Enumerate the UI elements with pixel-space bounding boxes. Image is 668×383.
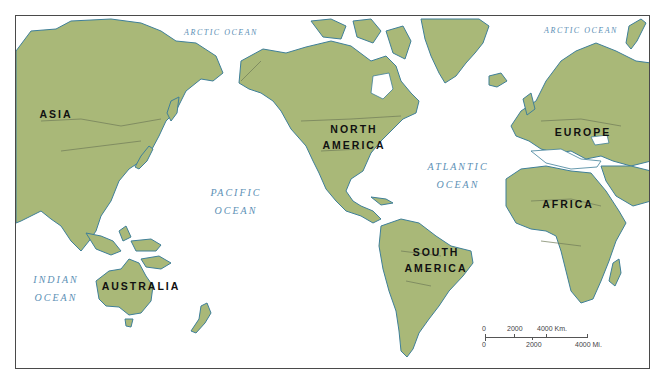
scale-mi-4000: 4000 Mi. xyxy=(575,341,602,348)
scale-mi-0: 0 xyxy=(482,341,486,348)
scale-line xyxy=(485,337,588,338)
landmass-asia xyxy=(16,19,223,251)
landmass-iceland xyxy=(489,73,507,87)
continent-label-africa: AFRICA xyxy=(533,196,603,212)
scale-tick-mi-2000 xyxy=(532,337,533,340)
ocean-label-atlantic: ATLANTICOCEAN xyxy=(418,158,498,194)
continent-label-south-america: SOUTHAMERICA xyxy=(391,244,481,276)
scale-tick-km-4000 xyxy=(546,334,547,337)
continent-label-europe: EUROPE xyxy=(548,124,618,140)
landmass-south-america xyxy=(379,219,473,357)
scale-tick-mi-4000 xyxy=(587,334,588,338)
landmass-africa xyxy=(506,166,626,303)
landmass-tasmania xyxy=(125,319,133,327)
map-frame: ASIA NORTHAMERICA SOUTHAMERICA EUROPE AF… xyxy=(15,15,650,369)
landmass-greenland xyxy=(421,19,489,83)
scale-km-4000: 4000 Km. xyxy=(537,325,567,332)
scale-km-0: 0 xyxy=(482,325,486,332)
landmass-caribbean xyxy=(371,197,393,205)
scale-tick-km-2000 xyxy=(514,334,515,337)
continent-label-asia: ASIA xyxy=(31,106,81,122)
ocean-label-pacific: PACIFICOCEAN xyxy=(196,184,276,220)
landmass-madagascar xyxy=(609,259,621,286)
ocean-label-arctic-west: ARCTIC OCEAN xyxy=(166,24,276,42)
scale-tick-0 xyxy=(485,334,486,341)
ocean-label-arctic-east: ARCTIC OCEAN xyxy=(526,22,636,40)
landmass-se-asia-islands xyxy=(86,226,161,255)
continent-label-australia: AUSTRALIA xyxy=(96,278,186,294)
scale-bar: 0 2000 4000 Km. 0 2000 4000 Mi. xyxy=(482,325,592,355)
ocean-label-indian: INDIANOCEAN xyxy=(21,271,91,307)
scale-mi-2000: 2000 xyxy=(526,341,542,348)
world-map xyxy=(16,16,650,369)
landmass-new-zealand xyxy=(191,303,211,333)
landmass-new-guinea xyxy=(141,256,171,269)
continent-label-north-america: NORTHAMERICA xyxy=(309,121,399,153)
scale-km-2000: 2000 xyxy=(507,325,523,332)
